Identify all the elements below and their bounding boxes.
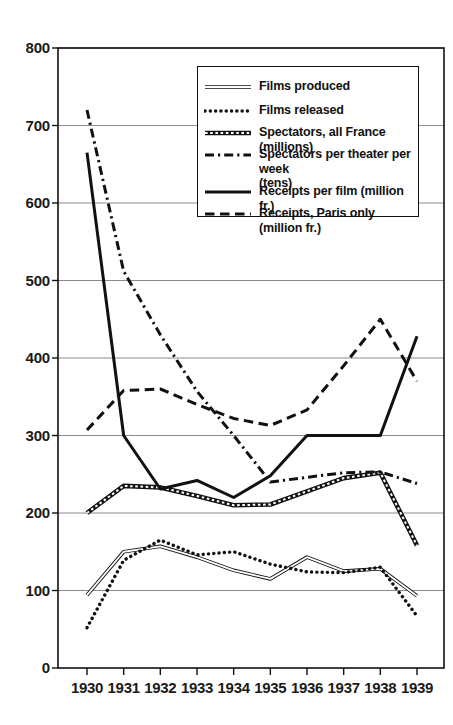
y-axis-tick-label: 400 [4,349,50,366]
legend-swatch-icon [204,148,252,162]
series-line [87,319,417,430]
y-axis-tick-label: 700 [4,117,50,134]
legend-item: Films released [204,103,344,118]
chart-container: 0100200300400500600700800 19301931193219… [0,0,453,725]
legend-item: Films produced [204,79,350,94]
y-axis-tick-label: 200 [4,504,50,521]
y-axis-tick-label: 800 [4,39,50,56]
legend-swatch-icon [204,207,252,221]
legend-swatch-icon [204,126,252,140]
y-axis-tick-label: 500 [4,272,50,289]
chart-legend: Films producedFilms releasedSpectators, … [197,66,419,217]
legend-item-label: Receipts, Paris only (million fr.) [259,206,418,235]
legend-item-label: Films released [259,103,344,118]
y-axis-tick-label: 0 [4,659,50,676]
y-axis-tick-label: 600 [4,194,50,211]
legend-swatch-icon [204,185,252,199]
series-line [87,473,417,546]
y-axis-tick-label: 300 [4,427,50,444]
legend-item: Receipts, Paris only (million fr.) [204,206,418,235]
series-2 [87,473,417,546]
y-axis-tick-label: 100 [4,582,50,599]
series-5 [87,319,417,430]
legend-item-label: Films produced [259,79,350,94]
series-1 [87,540,417,628]
legend-swatch-icon [204,80,252,94]
series-line [87,540,417,628]
x-axis-tick-label: 1939 [394,679,440,696]
series-line [87,473,417,546]
legend-swatch-icon [204,104,252,118]
